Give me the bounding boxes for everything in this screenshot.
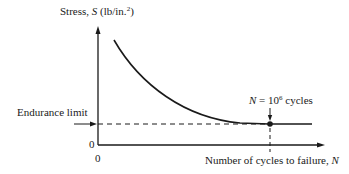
x-axis-arrowhead-icon <box>317 143 325 148</box>
n-million-annotation: N = 106 cycles <box>249 95 313 106</box>
x-axis-label: Number of cycles to failure, N <box>205 155 339 166</box>
sn-curve-diagram: Stress, S (lb/in.2) Endurance limit 0 0 … <box>0 0 349 174</box>
endurance-limit-label: Endurance limit <box>17 107 88 118</box>
endurance-limit-arrowhead-icon <box>90 122 97 127</box>
x-origin-label: 0 <box>95 153 101 164</box>
diagram-canvas <box>0 0 349 174</box>
sn-curve <box>114 40 312 124</box>
annotation-arrowhead-icon <box>268 115 272 121</box>
y-origin-label: 0 <box>89 139 95 150</box>
y-axis-label: Stress, S (lb/in.2) <box>60 6 134 17</box>
knee-point-marker <box>267 121 273 127</box>
y-axis-arrowhead-icon <box>96 26 101 34</box>
